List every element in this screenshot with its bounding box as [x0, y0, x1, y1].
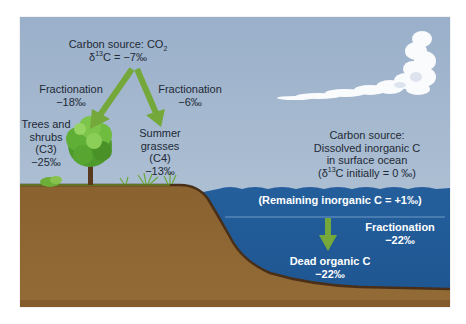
c3-fractionation-value: −18‰ [30, 96, 112, 109]
co2-source-text: Carbon source: CO [69, 38, 164, 50]
ocean-fractionation-title: Fractionation [360, 221, 440, 234]
c4-line1: Summer [130, 127, 190, 140]
ocean-delta-prefix: (δ [318, 167, 328, 179]
remaining-inorganic-text: (Remaining inorganic C = +1‰) [240, 194, 440, 207]
c4-fractionation-label: Fractionation −6‰ [150, 83, 230, 108]
ocean-source-line3: in surface ocean [302, 154, 432, 167]
c3-fractionation-title: Fractionation [30, 83, 112, 96]
c4-fractionation-value: −6‰ [150, 96, 230, 109]
ocean-fractionation-value: −22‰ [360, 234, 440, 247]
ocean-source-line2: Dissolved inorganic C [302, 142, 432, 155]
c3-line2: shrubs [20, 131, 74, 144]
carbon-isotope-diagram: Carbon source: CO2 δ13C = −7‰ Fractionat… [20, 17, 450, 307]
co2-delta-value: C = −7‰ [103, 51, 147, 63]
ocean-source-line1: Carbon source: [302, 129, 432, 142]
c4-fractionation-title: Fractionation [150, 83, 230, 96]
c3-value: −25‰ [20, 156, 74, 169]
c3-plants-label: Trees and shrubs (C3) −25‰ [20, 118, 74, 168]
c3-fractionation-label: Fractionation −18‰ [30, 83, 112, 108]
c4-line3: (C4) [130, 152, 190, 165]
ocean-delta-superscript: 13 [328, 166, 336, 173]
dead-organic-value: −22‰ [285, 268, 375, 281]
c4-plants-label: Summer grasses (C4) −13‰ [130, 127, 190, 177]
co2-subscript: 2 [163, 45, 167, 52]
c4-value: −13‰ [130, 165, 190, 178]
dead-organic-title: Dead organic C [285, 255, 375, 268]
c4-line2: grasses [130, 140, 190, 153]
ocean-fractionation-label: Fractionation −22‰ [360, 221, 440, 246]
co2-source-label: Carbon source: CO2 δ13C = −7‰ [48, 38, 188, 63]
delta-superscript: 13 [95, 50, 103, 57]
ocean-source-label: Carbon source: Dissolved inorganic C in … [302, 129, 432, 179]
remaining-inorganic-label: (Remaining inorganic C = +1‰) [240, 194, 440, 207]
c3-line1: Trees and [20, 118, 74, 131]
dead-organic-label: Dead organic C −22‰ [285, 255, 375, 280]
ocean-delta-rest: C initially = 0 ‰) [336, 167, 416, 179]
c3-line3: (C3) [20, 143, 74, 156]
